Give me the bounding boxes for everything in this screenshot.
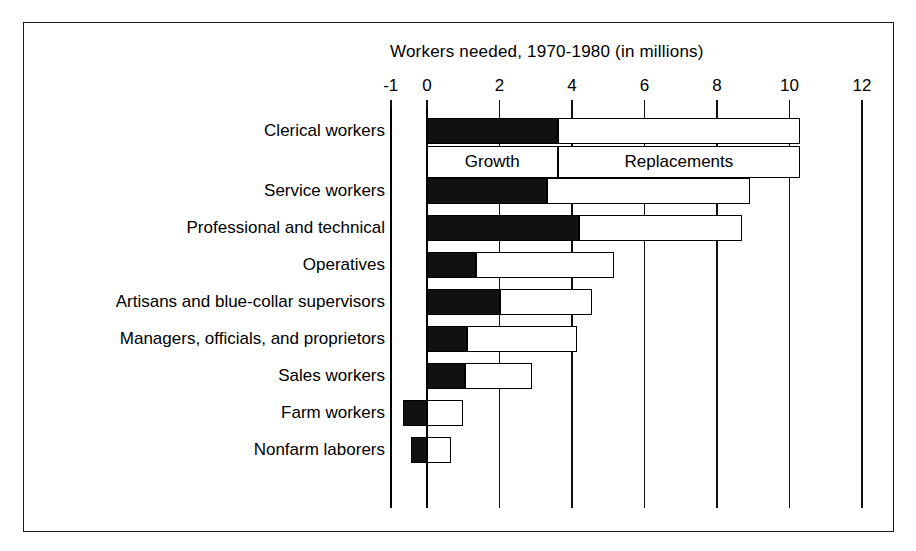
bar-segment-replacements <box>547 178 750 204</box>
x-tick-label--1: -1 <box>371 76 411 96</box>
bar-segment-growth <box>427 289 500 315</box>
chart-title: Workers needed, 1970-1980 (in millions) <box>390 42 890 62</box>
bar-segment-replacements <box>427 437 451 463</box>
bar-segment-growth <box>403 400 427 426</box>
bar-segment-replacements <box>558 118 801 144</box>
category-label: Operatives <box>303 256 385 273</box>
category-label: Farm workers <box>281 404 385 421</box>
category-label: Sales workers <box>278 367 385 384</box>
x-tick-label-0: 0 <box>407 76 447 96</box>
category-label: Professional and technical <box>187 219 385 236</box>
bar-segment-growth <box>427 363 465 389</box>
category-label: Service workers <box>264 182 385 199</box>
category-label: Nonfarm laborers <box>254 441 385 458</box>
bar-segment-replacements <box>467 326 578 352</box>
category-label: Artisans and blue-collar supervisors <box>116 293 385 310</box>
bar-segment-growth <box>427 178 547 204</box>
bar-segment-growth <box>427 252 476 278</box>
legend-item-replacements: Replacements <box>558 146 801 178</box>
chart-figure: Workers needed, 1970-1980 (in millions) … <box>0 0 916 551</box>
bar-segment-replacements <box>579 215 742 241</box>
category-label: Clerical workers <box>264 122 385 139</box>
gridline--1 <box>390 108 392 508</box>
x-tick-label-6: 6 <box>625 76 665 96</box>
x-tick-label-2: 2 <box>480 76 520 96</box>
legend-item-growth: Growth <box>427 146 558 178</box>
x-tick-label-10: 10 <box>770 76 810 96</box>
bar-segment-growth <box>427 326 467 352</box>
bar-segment-replacements <box>465 363 532 389</box>
gridline-12 <box>861 108 863 508</box>
bar-segment-replacements <box>476 252 614 278</box>
x-tick-label-12: 12 <box>842 76 882 96</box>
bar-segment-growth <box>427 118 558 144</box>
category-label: Managers, officials, and proprietors <box>120 330 385 347</box>
bar-segment-growth <box>427 215 579 241</box>
bar-segment-replacements <box>427 400 463 426</box>
x-tick-label-4: 4 <box>552 76 592 96</box>
x-tick-label-8: 8 <box>697 76 737 96</box>
bar-segment-growth <box>411 437 427 463</box>
bar-segment-replacements <box>500 289 592 315</box>
